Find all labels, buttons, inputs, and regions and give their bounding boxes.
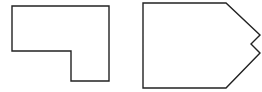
diagram-canvas bbox=[0, 0, 262, 92]
shapes-svg bbox=[0, 0, 262, 92]
notched-pentagon bbox=[143, 3, 260, 88]
l-shaped-polygon bbox=[12, 6, 109, 81]
